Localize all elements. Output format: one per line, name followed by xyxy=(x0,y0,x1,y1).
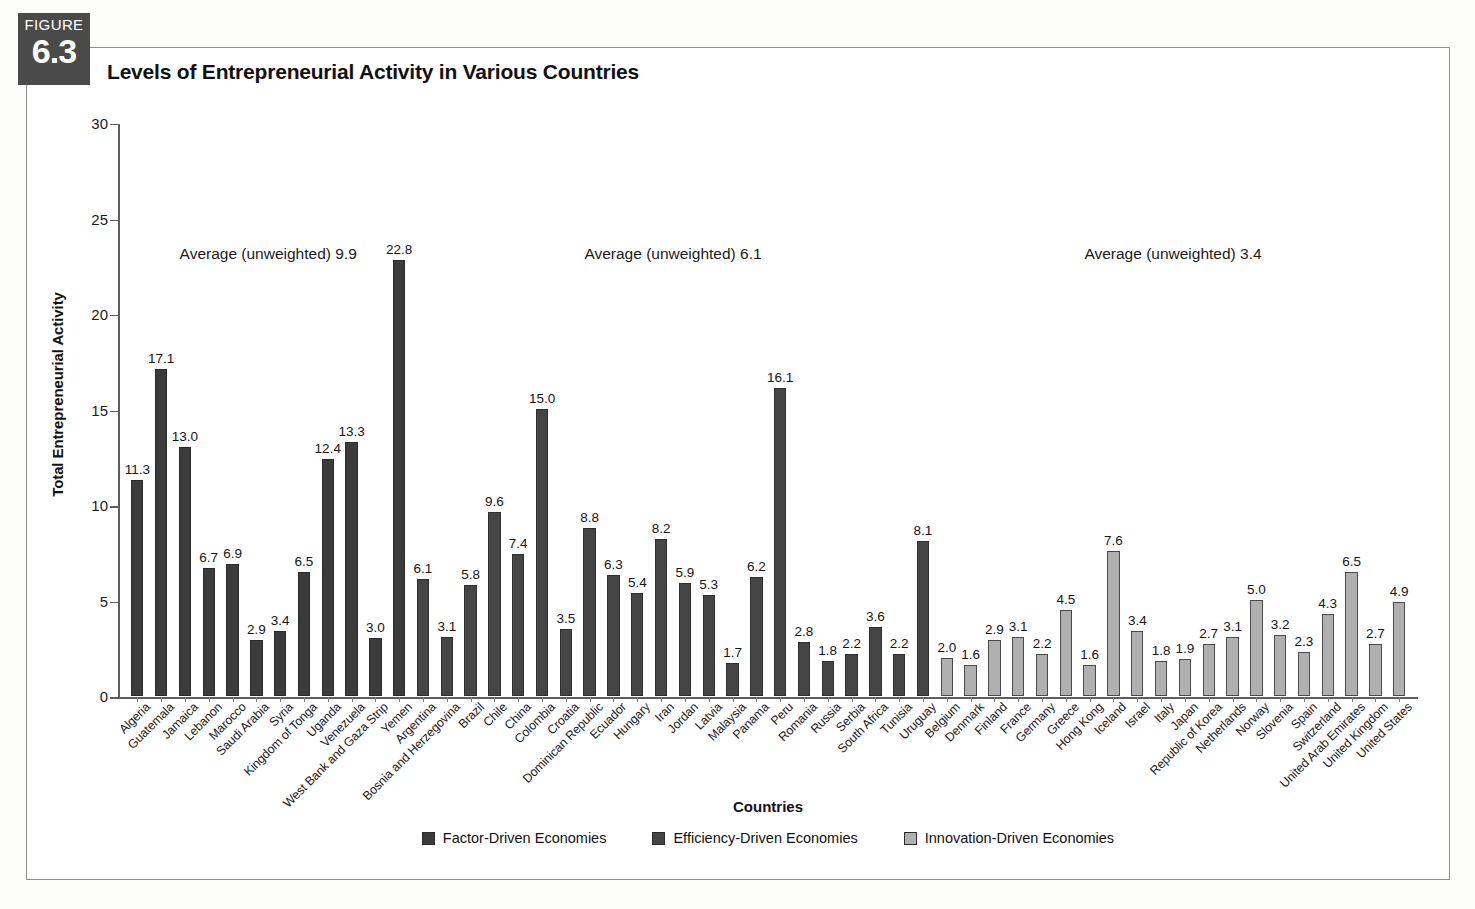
bar-bosnia-and-herzegovina[interactable]: 3.1 xyxy=(441,636,453,696)
bar-romania[interactable]: 2.8 xyxy=(798,641,810,696)
bar-value-label: 13.0 xyxy=(172,429,198,444)
bar-rect xyxy=(1250,600,1262,696)
bar-value-label: 2.2 xyxy=(842,636,861,651)
y-axis-tick-label: 20 xyxy=(68,306,108,323)
bar-latvia[interactable]: 5.3 xyxy=(703,594,715,696)
bar-rect xyxy=(964,665,976,696)
bar-peru[interactable]: 16.1 xyxy=(774,387,786,696)
bar-greece[interactable]: 4.5 xyxy=(1060,609,1072,696)
bar-value-label: 3.1 xyxy=(437,619,456,634)
bar-russia[interactable]: 1.8 xyxy=(822,660,834,695)
bar-denmark[interactable]: 1.6 xyxy=(964,664,976,696)
bar-rect xyxy=(1345,572,1357,696)
bar-rect xyxy=(1060,610,1072,696)
legend-item-efficiency[interactable]: Efficiency-Driven Economies xyxy=(652,830,857,846)
bar-value-label: 2.2 xyxy=(890,636,909,651)
bar-rect xyxy=(822,661,834,695)
bar-guatemala[interactable]: 17.1 xyxy=(155,368,167,696)
bar-value-label: 5.3 xyxy=(699,577,718,592)
legend-item-innovation[interactable]: Innovation-Driven Economies xyxy=(904,830,1114,846)
bar-value-label: 5.0 xyxy=(1247,582,1266,597)
bar-syria[interactable]: 3.4 xyxy=(274,630,286,696)
bar-value-label: 16.1 xyxy=(767,370,793,385)
bar-rect xyxy=(441,637,453,696)
bar-republic-of-korea[interactable]: 2.7 xyxy=(1203,643,1215,696)
bar-value-label: 8.8 xyxy=(580,510,599,525)
bar-united-arab-emirates[interactable]: 6.5 xyxy=(1345,571,1357,696)
bar-brazil[interactable]: 5.8 xyxy=(464,584,476,696)
figure-badge-number: 6.3 xyxy=(32,33,76,69)
bar-rect xyxy=(917,541,929,696)
bar-value-label: 3.1 xyxy=(1009,619,1028,634)
bar-switzerland[interactable]: 4.3 xyxy=(1322,613,1334,696)
bar-italy[interactable]: 1.8 xyxy=(1155,660,1167,695)
bar-venezuela[interactable]: 13.3 xyxy=(345,441,357,696)
bar-france[interactable]: 3.1 xyxy=(1012,636,1024,696)
bar-hong-kong[interactable]: 1.6 xyxy=(1083,664,1095,696)
bar-west-bank-and-gaza-strip[interactable]: 3.0 xyxy=(369,637,381,695)
bar-panama[interactable]: 6.2 xyxy=(750,576,762,696)
bar-finland[interactable]: 2.9 xyxy=(988,639,1000,695)
bar-tunisia[interactable]: 2.2 xyxy=(893,653,905,696)
bar-chile[interactable]: 9.6 xyxy=(488,511,500,695)
bar-colombia[interactable]: 15.0 xyxy=(536,408,548,696)
y-axis-tick-label: 30 xyxy=(68,115,108,132)
bar-value-label: 4.3 xyxy=(1318,596,1337,611)
bar-jordan[interactable]: 5.9 xyxy=(679,582,691,696)
bar-japan[interactable]: 1.9 xyxy=(1179,658,1191,695)
bar-dominican-republic[interactable]: 8.8 xyxy=(583,527,595,696)
bar-iran[interactable]: 8.2 xyxy=(655,538,667,696)
bar-value-label: 7.4 xyxy=(509,536,528,551)
bar-value-label: 4.9 xyxy=(1390,584,1409,599)
figure-badge-word: FIGURE xyxy=(24,16,83,33)
figure-badge: FIGURE 6.3 xyxy=(18,13,90,85)
y-axis-tick xyxy=(110,411,118,412)
bar-united-states[interactable]: 4.9 xyxy=(1393,601,1405,696)
bar-israel[interactable]: 3.4 xyxy=(1131,630,1143,696)
plot-area: 051015202530 11.317.113.06.76.92.93.46.5… xyxy=(118,124,1418,699)
bar-kingdom-of-tonga[interactable]: 6.5 xyxy=(298,571,310,696)
bar-saudi-arabia[interactable]: 2.9 xyxy=(250,639,262,695)
bar-yemen[interactable]: 22.8 xyxy=(393,259,405,696)
bar-china[interactable]: 7.4 xyxy=(512,553,524,695)
bar-uruguay[interactable]: 8.1 xyxy=(917,540,929,696)
bar-serbia[interactable]: 2.2 xyxy=(845,653,857,696)
bar-rect xyxy=(1131,631,1143,696)
bar-value-label: 13.3 xyxy=(338,424,364,439)
average-factor: Average (unweighted) 9.9 xyxy=(180,245,357,263)
bar-rect xyxy=(583,528,595,696)
bar-value-label: 2.9 xyxy=(247,622,266,637)
bar-rect xyxy=(893,654,905,696)
bar-rect xyxy=(226,564,238,696)
bar-ecuador[interactable]: 6.3 xyxy=(607,574,619,695)
bar-value-label: 6.9 xyxy=(223,546,242,561)
bar-argentina[interactable]: 6.1 xyxy=(417,578,429,696)
bar-rect xyxy=(869,627,881,696)
bar-hungary[interactable]: 5.4 xyxy=(631,592,643,696)
bar-spain[interactable]: 2.3 xyxy=(1298,651,1310,696)
bar-algeria[interactable]: 11.3 xyxy=(131,479,143,696)
bar-malaysia[interactable]: 1.7 xyxy=(726,662,738,695)
legend-item-factor[interactable]: Factor-Driven Economies xyxy=(422,830,607,846)
bar-rect xyxy=(536,409,548,696)
bar-germany[interactable]: 2.2 xyxy=(1036,653,1048,696)
bar-norway[interactable]: 5.0 xyxy=(1250,599,1262,696)
bar-lebanon[interactable]: 6.7 xyxy=(203,567,215,696)
bar-value-label: 3.6 xyxy=(866,609,885,624)
bar-rect xyxy=(1322,614,1334,696)
bar-slovenia[interactable]: 3.2 xyxy=(1274,634,1286,696)
bar-belgium[interactable]: 2.0 xyxy=(941,657,953,696)
bar-netherlands[interactable]: 3.1 xyxy=(1226,636,1238,696)
bar-uganda[interactable]: 12.4 xyxy=(322,458,334,696)
bar-south-africa[interactable]: 3.6 xyxy=(869,626,881,696)
y-axis-tick xyxy=(110,124,118,125)
bar-marocco[interactable]: 6.9 xyxy=(226,563,238,696)
bar-rect xyxy=(369,638,381,695)
bar-iceland[interactable]: 7.6 xyxy=(1107,550,1119,696)
bar-croatia[interactable]: 3.5 xyxy=(560,628,572,696)
bar-rect xyxy=(250,640,262,695)
y-axis-label: Total Entrepreneurial Activity xyxy=(49,160,66,630)
average-efficiency: Average (unweighted) 6.1 xyxy=(584,245,761,263)
bar-united-kingdom[interactable]: 2.7 xyxy=(1369,643,1381,696)
bar-jamaica[interactable]: 13.0 xyxy=(179,446,191,695)
